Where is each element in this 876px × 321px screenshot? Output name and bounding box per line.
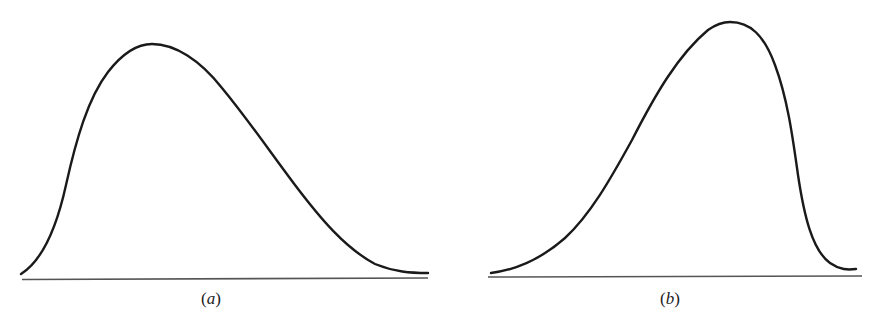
- curve-a: [21, 44, 428, 274]
- figure-a-caption: (a): [201, 289, 221, 309]
- baseline-b: [488, 276, 862, 277]
- figure-b: [488, 22, 862, 277]
- baseline-a: [22, 278, 428, 280]
- figure-a-caption-letter: a: [207, 289, 216, 308]
- curve-b: [491, 22, 856, 273]
- figure-b-caption: (b): [660, 289, 680, 309]
- skew-diagram: [0, 0, 876, 321]
- figure-b-caption-letter: b: [666, 289, 675, 308]
- figure-a: [21, 44, 428, 280]
